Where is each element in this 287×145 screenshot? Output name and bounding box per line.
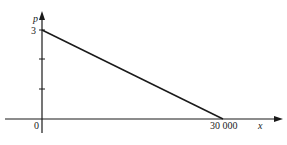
data-line bbox=[42, 30, 223, 119]
y-axis-label: p bbox=[32, 13, 38, 24]
x-intercept-label: 30 000 bbox=[210, 120, 238, 131]
x-axis-label: x bbox=[257, 120, 263, 131]
y-intercept-label: 3 bbox=[31, 25, 36, 36]
x-axis-arrow-icon bbox=[274, 116, 283, 122]
demand-line-chart: p 3 0 30 000 x bbox=[0, 0, 287, 145]
origin-label: 0 bbox=[34, 120, 39, 131]
y-axis-arrow-icon bbox=[39, 11, 45, 20]
